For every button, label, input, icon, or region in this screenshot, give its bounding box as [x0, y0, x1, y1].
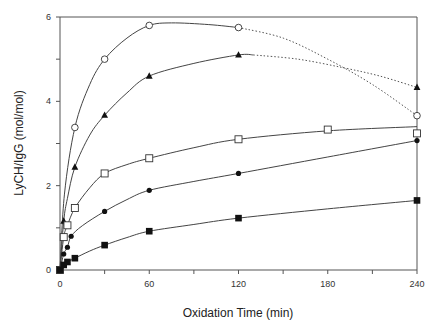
- x-tick-label: 0: [57, 279, 62, 289]
- open-square-marker: [324, 126, 331, 133]
- fit-curves: [60, 23, 417, 270]
- dotted-curve-filled-triangle: [253, 55, 417, 87]
- chart-canvas: 0601201802400246 Oxidation Time (min) Ly…: [0, 0, 435, 328]
- fit-curve-filled-square: [60, 200, 417, 270]
- x-tick-label: 60: [144, 279, 154, 289]
- open-circle-marker: [235, 24, 242, 31]
- filled-circle-marker: [147, 188, 152, 193]
- x-tick-label: 120: [231, 279, 246, 289]
- filled-circle-marker: [61, 251, 66, 256]
- x-axis-title: Oxidation Time (min): [183, 306, 294, 320]
- filled-circle-marker: [69, 234, 74, 239]
- y-tick-label: 0: [46, 265, 51, 275]
- filled-square-marker: [146, 228, 153, 235]
- filled-square-marker: [235, 215, 242, 222]
- filled-square-marker: [101, 242, 108, 249]
- x-tick-label: 180: [320, 279, 335, 289]
- open-circle-marker: [414, 112, 421, 119]
- filled-circle-marker: [65, 245, 70, 250]
- dotted-curve-open-circle: [239, 28, 418, 116]
- open-square-marker: [60, 234, 67, 241]
- x-tick-label: 240: [409, 279, 424, 289]
- filled-circle-marker: [236, 171, 241, 176]
- data-markers: [57, 22, 421, 273]
- open-circle-marker: [72, 124, 79, 131]
- open-square-marker: [71, 205, 78, 212]
- filled-circle-marker: [102, 209, 107, 214]
- open-square-marker: [146, 155, 153, 162]
- fit-curve-open-square: [60, 127, 417, 270]
- open-circle-marker: [101, 56, 108, 63]
- y-tick-label: 4: [46, 96, 51, 106]
- filled-square-marker: [414, 197, 421, 204]
- y-tick-label: 2: [46, 181, 51, 191]
- open-square-marker: [414, 130, 421, 137]
- open-circle-marker: [146, 22, 153, 29]
- open-square-marker: [64, 222, 71, 229]
- open-square-marker: [101, 170, 108, 177]
- filled-triangle-marker: [71, 163, 78, 169]
- open-square-marker: [235, 136, 242, 143]
- filled-square-marker: [72, 255, 79, 262]
- y-axis-title: LyCH/IgG (mol/mol): [12, 90, 26, 196]
- y-tick-label: 6: [46, 12, 51, 22]
- filled-square-marker: [64, 259, 71, 266]
- filled-circle-marker: [414, 138, 419, 143]
